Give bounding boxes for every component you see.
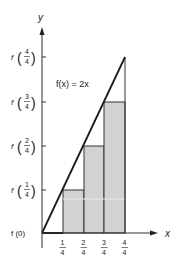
svg-text:(: ( (17, 183, 22, 199)
svg-text:f: f (11, 53, 14, 62)
x-tick-labels: 1 4 2 4 3 4 4 4 (60, 239, 129, 256)
svg-text:4: 4 (102, 249, 106, 256)
svg-text:4: 4 (82, 249, 86, 256)
svg-text:4: 4 (25, 147, 29, 154)
x-tick-label-1-4: 1 4 (60, 239, 67, 256)
svg-text:): ) (31, 139, 36, 155)
svg-text:4: 4 (61, 249, 65, 256)
x-tick-label-2-4: 2 4 (81, 239, 88, 256)
riemann-rectangles (42, 102, 125, 233)
svg-text:4: 4 (123, 239, 127, 246)
svg-text:): ) (31, 183, 36, 199)
function-label: f(x) = 2x (56, 79, 89, 89)
x-tick-label-3-4: 3 4 (101, 239, 108, 256)
svg-text:(: ( (17, 95, 22, 111)
svg-text:4: 4 (123, 249, 127, 256)
y-tick-label-f3-4: f ( 3 4 ) (11, 93, 36, 111)
y-tick-marks (42, 57, 46, 190)
svg-text:3: 3 (102, 239, 106, 246)
svg-text:4: 4 (25, 103, 29, 110)
rectangle-2 (63, 190, 84, 233)
svg-text:f: f (11, 186, 14, 195)
y-tick-label-f2-4: f ( 2 4 ) (11, 137, 36, 155)
y-tick-label-f4-4: f ( 4 4 ) (11, 48, 36, 66)
y-tick-label-f0: f (0) (11, 229, 26, 238)
y-axis-label: y (37, 12, 44, 23)
svg-text:2: 2 (82, 239, 86, 246)
x-axis-arrow-icon (150, 231, 158, 236)
svg-text:(: ( (17, 139, 22, 155)
x-axis-label: x (164, 228, 171, 239)
left-riemann-sum-diagram: y x f(x) = 2x f (0) f ( 1 4 ) f ( 2 4 ) … (0, 0, 181, 270)
svg-text:4: 4 (25, 48, 29, 55)
svg-text:2: 2 (25, 137, 29, 144)
svg-text:1: 1 (25, 181, 29, 188)
svg-text:): ) (31, 95, 36, 111)
svg-text:4: 4 (25, 191, 29, 198)
svg-text:(: ( (17, 50, 22, 66)
svg-text:f: f (11, 98, 14, 107)
svg-text:1: 1 (61, 239, 65, 246)
rectangle-4 (104, 102, 125, 233)
y-axis-arrow-icon (40, 27, 45, 35)
x-tick-label-4-4: 4 4 (122, 239, 129, 256)
y-tick-label-f1-4: f ( 1 4 ) (11, 181, 36, 199)
svg-text:f: f (11, 142, 14, 151)
svg-text:4: 4 (25, 58, 29, 65)
y-tick-labels: f (0) f ( 1 4 ) f ( 2 4 ) f ( 3 4 ) (11, 48, 36, 238)
svg-text:): ) (31, 50, 36, 66)
rectangle-3 (84, 146, 104, 233)
svg-text:3: 3 (25, 93, 29, 100)
